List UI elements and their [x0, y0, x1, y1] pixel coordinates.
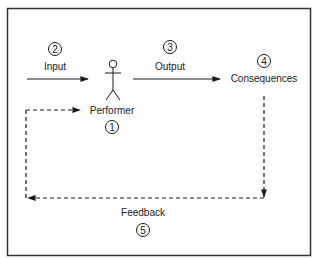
input-number: 2 [52, 44, 58, 55]
input-label: Input [44, 61, 66, 72]
performer-label: Performer [90, 105, 135, 116]
feedback-loop-diagram: 2 Input Performer 1 3 Output 4 Consequen… [0, 0, 317, 259]
performer-number: 1 [109, 122, 115, 133]
feedback-number: 5 [140, 225, 146, 236]
feedback-label: Feedback [121, 207, 166, 218]
consequences-label: Consequences [231, 73, 298, 84]
output-label: Output [155, 61, 185, 72]
consequences-number: 4 [261, 56, 267, 67]
output-number: 3 [167, 42, 173, 53]
